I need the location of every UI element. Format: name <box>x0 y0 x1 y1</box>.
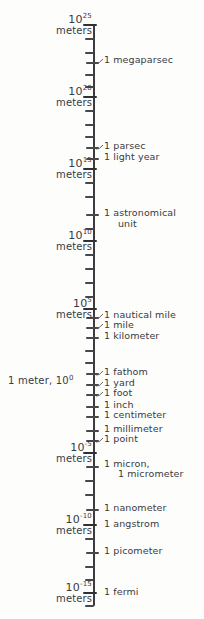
axis-tick <box>85 52 94 54</box>
unit-annotation: 1 megaparsec <box>104 55 173 65</box>
axis-tick <box>85 362 94 364</box>
axis-tick <box>86 509 99 511</box>
decade-unit-label: meters <box>56 170 92 180</box>
decade-unit-label: meters <box>56 526 92 536</box>
decade-unit-label: meters <box>56 98 92 108</box>
decade-label: 1010meters <box>56 231 92 252</box>
axis-tick <box>85 124 94 126</box>
axis-tick <box>86 394 99 396</box>
decade-exponent: 25 <box>83 12 92 20</box>
axis-tick <box>86 552 99 554</box>
axis-tick <box>85 110 94 112</box>
decade-exponent: 10 <box>83 228 92 236</box>
decade-label: 1025meters <box>56 15 92 36</box>
unit-annotation: 1 light year <box>104 152 160 162</box>
decade-label: 105meters <box>56 299 92 320</box>
decade-unit-label: meters <box>56 242 92 252</box>
unit-annotation: unit <box>118 219 137 229</box>
unit-annotation: 1 mile <box>104 320 134 330</box>
axis-tick <box>85 136 94 138</box>
decade-power-value: 10-15 <box>56 583 92 593</box>
axis-tick <box>85 268 94 270</box>
decade-exponent: -10 <box>80 512 92 520</box>
axis-tick <box>85 196 94 198</box>
decade-exponent: -15 <box>80 580 92 588</box>
decade-label-one-meter: 1 meter, 100 <box>8 375 92 386</box>
axis-tick <box>85 538 94 540</box>
decade-unit-label: meters <box>56 26 92 36</box>
decade-label: 1020meters <box>56 87 92 108</box>
axis-tick <box>85 605 94 607</box>
unit-annotation: 1 astronomical <box>104 208 176 218</box>
powers-of-ten-scale-figure: 1025meters1020meters1015meters1010meters… <box>0 0 204 619</box>
unit-annotation: 1 nanometer <box>104 503 166 513</box>
axis-tick <box>86 62 99 64</box>
axis-tick <box>86 430 99 432</box>
unit-annotation: 1 fermi <box>104 587 139 597</box>
unit-annotation: 1 fathom <box>104 367 148 377</box>
decade-power-value: 1010 <box>56 231 92 241</box>
decade-label: 1015meters <box>56 159 92 180</box>
decade-label: 10-5meters <box>56 443 92 464</box>
decade-power-value: 1015 <box>56 159 92 169</box>
axis-tick <box>86 416 99 418</box>
axis-tick <box>85 254 94 256</box>
decade-label: 10-10meters <box>56 515 92 536</box>
unit-annotation: 1 picometer <box>104 546 162 556</box>
unit-annotation: 1 centimeter <box>104 410 166 420</box>
unit-annotation: 1 kilometer <box>104 331 159 341</box>
unit-annotation: 1 angstrom <box>104 519 159 529</box>
unit-annotation: 1 foot <box>104 388 132 398</box>
decade-unit-label: meters <box>56 594 92 604</box>
axis-tick <box>85 282 94 284</box>
axis-tick <box>86 147 99 149</box>
axis-tick <box>85 566 94 568</box>
ten-to-zero-label: 100 <box>56 375 74 386</box>
axis-tick <box>86 466 99 468</box>
decade-label: 10-15meters <box>56 583 92 604</box>
decade-power-value: 1020 <box>56 87 92 97</box>
decade-power-value: 10-10 <box>56 515 92 525</box>
axis-tick <box>85 494 94 496</box>
decade-exponent: 5 <box>87 296 92 304</box>
decade-unit-label: meters <box>56 310 92 320</box>
axis-tick <box>85 350 94 352</box>
unit-annotation: 1 parsec <box>104 141 146 151</box>
axis-tick <box>86 337 99 339</box>
axis-tick <box>85 74 94 76</box>
decade-exponent: 15 <box>83 156 92 164</box>
decade-power-value: 105 <box>56 299 92 309</box>
unit-annotation: 1 point <box>104 434 138 444</box>
axis-tick <box>86 406 99 408</box>
axis-tick <box>85 480 94 482</box>
decade-power-value: 10-5 <box>56 443 92 453</box>
one-meter-text: 1 meter, <box>8 375 52 386</box>
decade-exponent: 20 <box>83 84 92 92</box>
axis-tick <box>86 327 99 329</box>
axis-tick <box>85 38 94 40</box>
decade-power-value: 1025 <box>56 15 92 25</box>
axis-tick <box>85 182 94 184</box>
axis-tick <box>86 214 99 216</box>
decade-unit-label: meters <box>56 454 92 464</box>
decade-exponent: -5 <box>85 440 92 448</box>
unit-annotation: 1 micrometer <box>118 469 183 479</box>
